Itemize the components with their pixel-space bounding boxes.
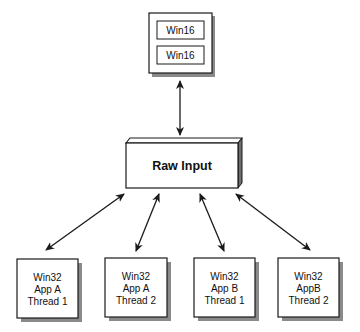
box-line: Win32	[122, 271, 151, 282]
box-line: Win32	[210, 271, 239, 282]
win32-box-app-b-thread-2: Win32 AppB Thread 2	[278, 258, 343, 321]
box-line: App B	[211, 283, 239, 294]
box-line: Thread 1	[27, 296, 67, 307]
win32-box-app-a-thread-1: Win32 App A Thread 1	[17, 259, 82, 322]
win16-label: Win16	[166, 25, 195, 36]
raw-input-side-face	[238, 138, 242, 188]
arrow-raw-input-app-a-thread-1	[46, 194, 124, 250]
win16-group: Win16 Win16	[149, 13, 215, 77]
box-line: Thread 2	[116, 295, 156, 306]
win16-item: Win16	[157, 46, 204, 64]
box-line: App A	[123, 283, 150, 294]
win32-box-app-a-thread-2: Win32 App A Thread 2	[105, 258, 171, 321]
arrow-raw-input-app-b-thread-2	[236, 194, 310, 250]
box-line: Win32	[33, 272, 62, 283]
box-line: Win32	[294, 271, 323, 282]
win16-label: Win16	[166, 50, 195, 61]
raw-input-label: Raw Input	[152, 159, 213, 173]
raw-input-box: Raw Input	[126, 138, 242, 188]
arrow-raw-input-app-a-thread-2	[136, 194, 159, 251]
box-line: Thread 1	[204, 295, 244, 306]
raw-input-top-face	[126, 138, 242, 143]
box-line: App A	[34, 284, 61, 295]
win16-item: Win16	[157, 21, 204, 39]
box-line: AppB	[296, 283, 321, 294]
raw-input-diagram: Win16 Win16 Raw Input Win32 App A Thread…	[0, 0, 360, 332]
box-line: Thread 2	[288, 295, 328, 306]
arrow-raw-input-app-b-thread-1	[200, 194, 224, 251]
win32-box-app-b-thread-1: Win32 App B Thread 1	[194, 258, 259, 321]
